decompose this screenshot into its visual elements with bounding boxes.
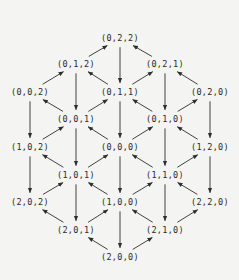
lattice-diagram: (0,2,2)(0,1,2)(0,2,1)(0,0,2)(0,1,1)(0,2,…	[0, 0, 239, 280]
arrow-edge	[88, 100, 107, 112]
node-label: (0,2,0)	[191, 87, 229, 97]
arrow-edge	[132, 210, 152, 223]
arrow-edge	[88, 72, 108, 85]
arrow-edge	[43, 100, 63, 112]
arrow-edge	[88, 210, 108, 223]
node-label: (0,1,1)	[101, 87, 139, 97]
node-label: (0,0,0)	[101, 142, 139, 152]
arrow-edge	[88, 238, 107, 250]
arrow-edge	[133, 46, 152, 57]
arrow-edge	[133, 100, 153, 112]
arrow-edge	[177, 72, 197, 85]
arrow-edge	[43, 127, 64, 140]
node-label: (1,0,2)	[11, 142, 49, 152]
node-label: (2,1,0)	[146, 225, 184, 235]
node-label: (2,0,2)	[11, 197, 49, 207]
node-label: (2,2,0)	[191, 197, 229, 207]
arrow-edge	[177, 127, 197, 140]
node-label: (1,0,1)	[57, 170, 95, 180]
arrow-edge	[132, 72, 152, 85]
node-label: (2,0,0)	[101, 252, 139, 262]
node-label: (1,2,0)	[191, 142, 229, 152]
arrow-edge	[178, 100, 198, 112]
node-label: (0,1,2)	[57, 59, 95, 69]
node-label: (0,0,1)	[57, 114, 95, 124]
node-label: (1,0,0)	[101, 197, 139, 207]
arrow-edge	[43, 155, 64, 168]
arrow-edge	[133, 183, 153, 195]
arrow-edge	[88, 155, 108, 168]
arrow-edge	[132, 127, 152, 140]
arrow-edge	[132, 155, 152, 168]
arrow-edge	[89, 46, 107, 57]
arrow-edge	[43, 72, 64, 85]
node-label: (0,2,2)	[101, 33, 139, 43]
arrow-edge	[43, 210, 64, 223]
node-label: (0,1,0)	[146, 114, 184, 124]
arrow-edge	[43, 183, 63, 195]
arrow-edge	[133, 238, 153, 250]
arrow-edge	[177, 155, 197, 168]
arrow-edge	[177, 210, 197, 223]
node-label: (0,0,2)	[11, 87, 49, 97]
arrow-edge	[178, 183, 198, 195]
arrow-edge	[88, 127, 108, 140]
node-label: (2,0,1)	[57, 225, 95, 235]
node-label: (0,2,1)	[146, 59, 184, 69]
node-label: (1,1,0)	[146, 170, 184, 180]
arrow-edge	[88, 183, 107, 195]
